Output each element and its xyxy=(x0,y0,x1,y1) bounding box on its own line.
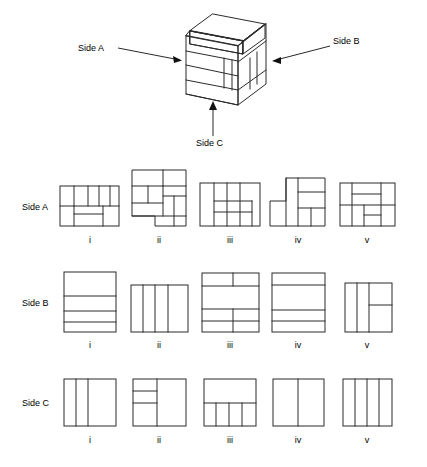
block-upper-front-face xyxy=(190,31,243,54)
callout-side-a-leader xyxy=(118,48,180,60)
side-b-option-ii[interactable]: ii xyxy=(131,285,188,350)
side-a-option-iv[interactable]: iv xyxy=(270,178,325,245)
callout-side-a-arrowhead xyxy=(173,56,182,63)
block-right-face-band-2 xyxy=(238,41,266,62)
block-left-face-course-3 xyxy=(186,80,238,90)
side-c-v-label: v xyxy=(365,435,370,445)
side-a-option-v[interactable]: v xyxy=(340,183,395,245)
side-a-ii-outline xyxy=(132,170,186,226)
side-c-option-iv[interactable]: iv xyxy=(273,379,324,445)
side-b-i-outline xyxy=(64,272,116,332)
side-b-option-iv[interactable]: iv xyxy=(272,273,325,350)
block-left-face-course-1 xyxy=(186,51,238,61)
side-b-option-i[interactable]: i xyxy=(64,272,116,350)
side-b-ii-outline xyxy=(131,285,188,332)
callout-side-b: Side B xyxy=(272,36,360,64)
side-c-option-v[interactable]: v xyxy=(343,379,392,445)
side-b-iv-label: iv xyxy=(295,340,302,350)
figure-root: Side A Side B Side C Side A xyxy=(0,0,427,467)
side-b-v-label: v xyxy=(365,340,370,350)
side-b-option-iii[interactable]: iii xyxy=(202,273,259,350)
block-upper-top-face xyxy=(190,14,265,41)
callout-side-b-arrowhead xyxy=(272,57,281,64)
side-c-i-label: i xyxy=(89,435,91,445)
side-a-i-label: i xyxy=(89,235,91,245)
side-a-iv-label: iv xyxy=(295,235,302,245)
callout-side-c: Side C xyxy=(196,101,224,148)
block-top-ledge-face xyxy=(186,31,243,46)
side-c-option-iii[interactable]: iii xyxy=(204,379,256,445)
side-b-iii-outline xyxy=(202,273,259,332)
row-label-side-a: Side A xyxy=(22,202,48,212)
block-left-face-course-2 xyxy=(186,65,238,76)
side-a-ii-label: ii xyxy=(157,235,161,245)
side-c-option-i[interactable]: i xyxy=(64,379,116,445)
callout-side-c-arrowhead xyxy=(209,101,217,110)
side-b-ii-label: ii xyxy=(157,340,161,350)
side-c-ii-label: ii xyxy=(157,435,161,445)
side-a-option-i[interactable]: i xyxy=(60,186,119,245)
side-a-iii-outline xyxy=(200,183,260,226)
side-b-i-label: i xyxy=(89,340,91,350)
puzzle-figure-svg: Side A Side B Side C Side A xyxy=(0,0,427,467)
callout-side-a-label: Side A xyxy=(78,43,104,53)
side-c-i-outline xyxy=(64,379,116,426)
block-step-ledge xyxy=(190,31,243,54)
block-right-face-top-edge xyxy=(238,24,266,46)
isometric-block xyxy=(186,14,266,105)
block-right-face xyxy=(238,24,266,105)
side-a-option-iii[interactable]: iii xyxy=(200,183,260,245)
row-label-side-c: Side C xyxy=(22,398,50,408)
callout-side-a: Side A xyxy=(78,43,182,63)
side-a-v-label: v xyxy=(365,235,370,245)
side-a-option-ii[interactable]: ii xyxy=(132,170,186,245)
side-c-iii-label: iii xyxy=(227,435,233,445)
callout-side-b-label: Side B xyxy=(333,36,360,46)
side-b-iii-label: iii xyxy=(227,340,233,350)
side-c-option-ii[interactable]: ii xyxy=(133,379,186,445)
side-b-iv-outline xyxy=(272,273,325,332)
side-c-iv-label: iv xyxy=(295,435,302,445)
callout-side-b-leader xyxy=(276,46,330,60)
side-a-iii-label: iii xyxy=(227,235,233,245)
callout-side-c-label: Side C xyxy=(196,138,224,148)
row-label-side-b: Side B xyxy=(22,298,49,308)
side-b-option-v[interactable]: v xyxy=(345,283,392,350)
